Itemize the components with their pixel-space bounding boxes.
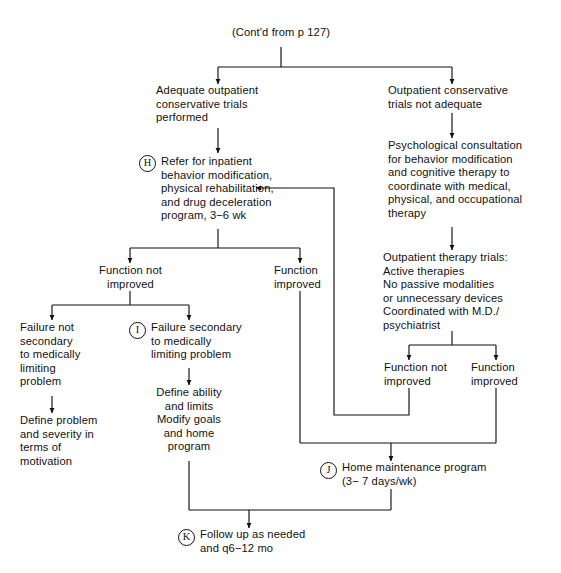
node-psychological-consultation: Psychological consultation for behavior … <box>388 139 553 221</box>
node-trials-not-adequate: Outpatient conservative trials not adequ… <box>388 84 548 111</box>
step-tag-i: I <box>129 322 146 339</box>
node-failure-secondary: Failure secondary to medically limiting … <box>151 321 266 362</box>
node-left-function-not-improved: Function not improved <box>88 264 173 291</box>
node-refer-inpatient-program: Refer for inpatient behavior modificatio… <box>161 155 301 223</box>
node-define-ability-limits: Define ability and limits Modify goals a… <box>134 386 244 454</box>
node-adequate-outpatient-trials: Adequate outpatient conservative trials … <box>156 84 291 125</box>
node-continued-from: (Cont'd from p 127) <box>196 26 366 40</box>
node-left-function-improved: Function improved <box>274 264 344 291</box>
node-failure-not-secondary: Failure not secondary to medically limit… <box>20 321 105 389</box>
node-outpatient-therapy-trials: Outpatient therapy trials: Active therap… <box>383 251 553 333</box>
node-home-maintenance-program: Home maintenance program (3− 7 days/wk) <box>342 461 557 488</box>
node-follow-up: Follow up as needed and q6−12 mo <box>200 528 360 555</box>
step-tag-k: K <box>178 529 195 546</box>
node-right-function-improved: Function improved <box>471 361 546 388</box>
node-right-function-not-improved: Function not improved <box>384 361 464 388</box>
step-tag-j: J <box>320 462 337 479</box>
step-tag-h: H <box>139 155 156 172</box>
flowchart-canvas: (Cont'd from p 127) Adequate outpatient … <box>0 0 561 573</box>
node-define-problem-severity: Define problem and severity in terms of … <box>20 414 125 468</box>
